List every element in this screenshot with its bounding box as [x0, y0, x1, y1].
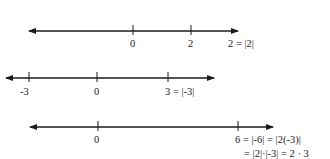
number-line-3: [30, 121, 273, 131]
tick-label-neg3: -3: [20, 87, 29, 98]
tick-label-0: 0: [94, 135, 99, 146]
tick-label-6-abs: 6 = |-6| = |2(-3)|: [235, 135, 301, 146]
annotation-abs-2: 2 = |2|: [228, 39, 254, 50]
tick-label-0: 0: [130, 39, 135, 50]
tick-label-2: 2: [188, 39, 193, 50]
number-line-1: [29, 25, 238, 35]
number-line-2: [6, 72, 214, 82]
annotation-product: = |2|·|-3| = 2 · 3: [244, 149, 309, 159]
tick-label-0: 0: [94, 87, 99, 98]
tick-label-3-abs: 3 = |-3|: [165, 87, 194, 98]
